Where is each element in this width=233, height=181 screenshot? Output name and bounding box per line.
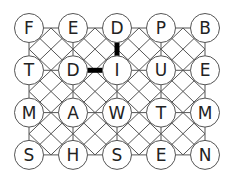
letter-cell[interactable]: P <box>147 14 176 43</box>
cell-letter: P <box>156 18 166 38</box>
letter-cell[interactable]: E <box>59 14 88 43</box>
cell-letter: T <box>155 103 167 123</box>
cell-letter: M <box>198 103 213 123</box>
cell-letter: U <box>155 60 167 80</box>
cell-letter: H <box>67 145 80 165</box>
cell-letter: S <box>112 145 123 165</box>
letter-cell[interactable]: E <box>191 56 220 85</box>
cell-letter: S <box>24 145 35 165</box>
letter-cell[interactable]: A <box>59 98 88 127</box>
cell-letter: B <box>199 18 211 38</box>
cell-letter: F <box>24 18 34 38</box>
cell-letter: E <box>68 18 79 38</box>
letter-cell[interactable]: D <box>59 56 88 85</box>
cell-letter: T <box>23 60 35 80</box>
letter-cell[interactable]: D <box>103 14 132 43</box>
cell-letter: M <box>22 103 37 123</box>
cell-letter: N <box>199 145 212 165</box>
cell-letter: E <box>156 145 167 165</box>
cell-letter: W <box>109 103 126 123</box>
cell-letter: A <box>67 103 79 123</box>
letter-cell[interactable]: I <box>103 56 132 85</box>
letter-cell[interactable]: H <box>59 140 88 169</box>
grid-canvas: FEDPBTDIUEMAWTMSHSEN <box>0 0 233 181</box>
letter-cell[interactable]: F <box>15 14 44 43</box>
letter-cell[interactable]: B <box>191 14 220 43</box>
letter-cell[interactable]: W <box>103 98 132 127</box>
letter-cell[interactable]: M <box>15 98 44 127</box>
letter-cell[interactable]: N <box>191 140 220 169</box>
letter-cell[interactable]: M <box>191 98 220 127</box>
letter-cell[interactable]: T <box>147 98 176 127</box>
letter-cell[interactable]: S <box>15 140 44 169</box>
letter-cell[interactable]: T <box>15 56 44 85</box>
letter-cell[interactable]: E <box>147 140 176 169</box>
cell-letter: D <box>110 18 123 38</box>
letter-grid-board: FEDPBTDIUEMAWTMSHSEN <box>0 0 233 181</box>
cell-letter: I <box>114 60 119 80</box>
letter-cell[interactable]: U <box>147 56 176 85</box>
letter-cell[interactable]: S <box>103 140 132 169</box>
cell-letter: D <box>66 60 79 80</box>
cell-letter: E <box>200 60 211 80</box>
